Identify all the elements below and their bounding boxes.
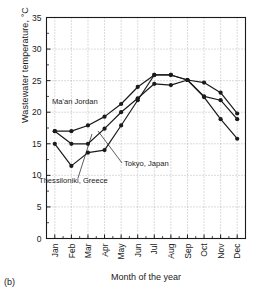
line-chart: 05101520253035JanFebMarAprMayJunJulAugSe…	[0, 0, 263, 294]
y-axis-tick-label: 35	[32, 13, 42, 23]
data-point-marker	[219, 91, 223, 95]
plot-frame	[47, 18, 246, 239]
series-line	[55, 75, 237, 166]
x-axis-tick-label: Aug	[166, 243, 176, 258]
annotation-leader-line	[98, 131, 122, 163]
x-axis-tick-label: Jun	[133, 243, 143, 257]
data-point-marker	[69, 129, 73, 133]
data-point-marker	[136, 85, 140, 89]
x-axis-tick-label: Jul	[149, 243, 159, 254]
data-point-marker	[69, 164, 73, 168]
data-point-marker	[69, 142, 73, 146]
data-point-marker	[219, 117, 223, 121]
data-point-marker	[169, 73, 173, 77]
data-point-marker	[235, 117, 239, 121]
data-point-marker	[169, 83, 173, 87]
data-point-marker	[185, 78, 189, 82]
x-axis-tick-label: May	[116, 243, 126, 260]
x-axis-tick-label: Oct	[199, 243, 209, 257]
figure-caption: (b)	[4, 277, 15, 287]
y-axis-tick-label: 15	[32, 139, 42, 149]
y-axis-tick-label: 0	[37, 234, 42, 244]
data-point-marker	[102, 127, 106, 131]
x-axis-tick-label: Nov	[216, 243, 226, 259]
series-annotation-label: Tokyo, Japan	[124, 159, 169, 168]
data-point-marker	[119, 123, 123, 127]
x-axis-tick-label: Mar	[83, 243, 93, 258]
data-point-marker	[102, 115, 106, 119]
data-point-marker	[136, 98, 140, 102]
data-point-marker	[235, 137, 239, 141]
data-point-marker	[202, 95, 206, 99]
y-axis-tick-label: 20	[32, 107, 42, 117]
data-point-marker	[53, 142, 57, 146]
x-axis-tick-label: Feb	[67, 243, 77, 258]
data-point-marker	[119, 110, 123, 114]
x-axis-tick-label: Sep	[183, 243, 193, 258]
data-point-marker	[102, 148, 106, 152]
data-point-marker	[219, 98, 223, 102]
data-point-marker	[53, 129, 57, 133]
series-annotation-label: Ma'an Jordan	[52, 97, 98, 106]
y-axis-tick-label: 25	[32, 76, 42, 86]
data-point-marker	[152, 82, 156, 86]
data-point-marker	[86, 123, 90, 127]
y-axis-tick-label: 30	[32, 44, 42, 54]
x-axis-tick-label: Apr	[100, 243, 110, 256]
x-axis-tick-label: Jan	[50, 243, 60, 257]
figure-panel-b: Wastewater temperature, °C 0510152025303…	[0, 0, 263, 294]
data-point-marker	[152, 73, 156, 77]
x-axis-title: Month of the year	[46, 272, 246, 282]
data-point-marker	[202, 80, 206, 84]
y-axis-tick-label: 5	[37, 202, 42, 212]
series-annotation-label: Thessiloniki, Greece	[39, 176, 108, 185]
data-point-marker	[235, 111, 239, 115]
annotation-leader-line	[78, 134, 92, 178]
x-axis-tick-label: Dec	[232, 243, 242, 259]
data-point-marker	[119, 102, 123, 106]
